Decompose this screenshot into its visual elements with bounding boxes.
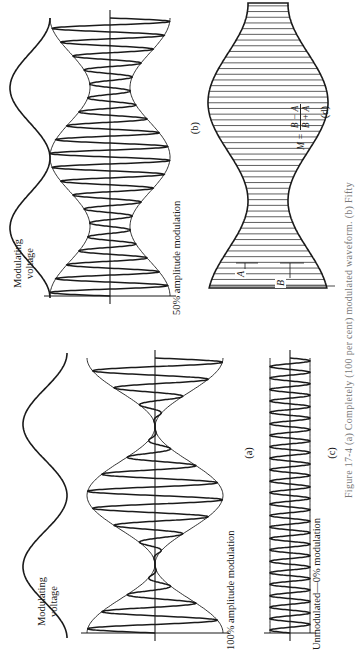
modulating-label-line2: voltage — [24, 239, 36, 288]
panel-b-tag: (b) — [190, 122, 201, 134]
panel-b-am-waveform-envelope-upper — [50, 18, 90, 296]
am-modulation-figure: Modulating voltage 100% amplitude modula… — [0, 0, 363, 658]
dimension-b-label: B — [275, 278, 286, 288]
panel-a-tag: (a) — [244, 447, 255, 459]
dimension-a-label: A — [235, 269, 246, 279]
panel-d-tag: (d) — [320, 106, 331, 118]
panel-a-title: 100% amplitude modulation — [226, 530, 237, 650]
panel-b-am-waveform-envelope-lower — [130, 18, 170, 296]
figure-caption: Figure 17-4 (a) Completely (100 per cent… — [344, 182, 354, 498]
modulating-label-line1: Modulating — [36, 577, 48, 626]
panel-c-tag: (c) — [327, 447, 338, 459]
modulation-index-formula: M = B − A B + A — [290, 104, 311, 150]
figure-page: Modulating voltage 100% amplitude modula… — [0, 0, 363, 658]
modulating-label-line2: voltage — [48, 577, 60, 626]
formula-numerator: B − A — [290, 104, 301, 131]
formula-lhs: M = — [296, 133, 306, 150]
formula-denominator: B + A — [301, 104, 311, 131]
panel-b-modulating-label: Modulating voltage — [12, 239, 35, 288]
panel-c-title: Unmodulated—0% modulation — [312, 518, 323, 650]
panel-b-title: 50% amplitude modulation — [172, 201, 183, 315]
panel-a-modulating-label: Modulating voltage — [36, 577, 59, 626]
waveform-drawings — [0, 0, 363, 658]
modulating-label-line1: Modulating — [12, 239, 24, 288]
